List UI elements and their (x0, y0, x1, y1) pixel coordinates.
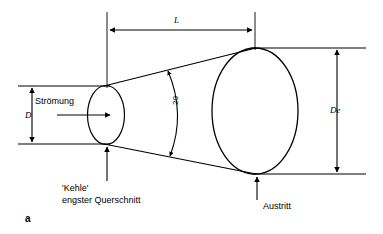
reference-lines (18, 48, 366, 174)
exit-diameter-label: De (330, 105, 341, 116)
cone-lower-line (104, 144, 256, 174)
throat-callout-line-1: 'Kehle' (62, 183, 88, 193)
throat-callout-label: 'Kehle' engster Querschnitt (62, 183, 182, 206)
cone-angle-label: 20 (170, 96, 181, 105)
nozzle-diagram-svg (0, 0, 383, 234)
cone-angle-arc (168, 71, 178, 156)
flow-label: Strömung (35, 96, 74, 107)
length-extension-lines (107, 12, 255, 88)
cone-body (104, 48, 256, 174)
outlet-label: Austritt (263, 201, 291, 212)
panel-label: a (25, 213, 31, 224)
figure-container: L D De 20 Strömung 'Kehle' engster Quers… (0, 0, 383, 234)
length-label: L (174, 15, 179, 26)
cone-upper-line (104, 48, 256, 86)
throat-diameter-label: D (25, 110, 32, 121)
throat-callout-line-2: engster Querschnitt (62, 195, 141, 205)
exit-ellipse (212, 48, 298, 174)
